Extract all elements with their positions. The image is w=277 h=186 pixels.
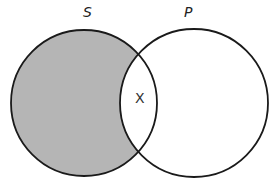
set-s-label: S <box>83 4 92 20</box>
set-p-label: P <box>184 4 192 20</box>
intersection-x-mark: X <box>135 90 145 106</box>
